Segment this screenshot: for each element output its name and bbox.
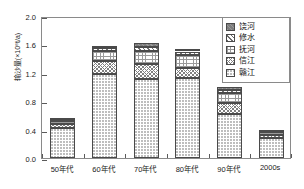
legend-label: 赣江	[239, 69, 255, 77]
bar-segment-信江[interactable]	[50, 124, 75, 128]
bar-segment-抚河[interactable]	[134, 51, 159, 64]
bar-segment-赣江[interactable]	[175, 78, 200, 158]
bar-segment-信江[interactable]	[259, 135, 284, 139]
x-tick-label: 90年代	[217, 163, 239, 174]
y-tick-label: 0.4	[6, 126, 36, 135]
legend-item[interactable]: 赣江	[226, 67, 287, 79]
bar-segment-抚河[interactable]	[217, 93, 242, 103]
bar-segment-信江[interactable]	[175, 68, 200, 78]
x-tick-label: 80年代	[176, 163, 198, 174]
x-tick-mark	[291, 154, 292, 158]
bar-segment-赣江[interactable]	[217, 114, 242, 158]
legend-label: 饶河	[239, 23, 255, 31]
bar-segment-饶河[interactable]	[92, 46, 117, 48]
x-tick-label: 70年代	[134, 163, 156, 174]
bar-segment-信江[interactable]	[92, 61, 117, 73]
legend-swatch-抚河	[226, 46, 235, 54]
bar-segment-赣江[interactable]	[92, 74, 117, 158]
bar-segment-饶河[interactable]	[175, 49, 200, 51]
legend-label: 抚河	[239, 46, 255, 54]
y-tick-label: 0.0	[6, 155, 36, 164]
legend-swatch-信江	[226, 57, 235, 65]
y-tick-label: 1.2	[6, 69, 36, 78]
legend-swatch-赣江	[226, 69, 235, 77]
legend-item[interactable]: 信江	[226, 56, 287, 68]
bar-segment-赣江[interactable]	[134, 79, 159, 158]
bar-segment-修水[interactable]	[134, 47, 159, 51]
bar-segment-饶河[interactable]	[134, 43, 159, 47]
x-tick-label: 2000s	[260, 163, 280, 172]
bar-segment-饶河[interactable]	[50, 118, 75, 120]
bar-stack[interactable]	[92, 16, 117, 158]
legend-label: 信江	[239, 57, 255, 65]
y-tick-label: 0.8	[6, 98, 36, 107]
bar-segment-信江[interactable]	[217, 103, 242, 114]
bar-segment-信江[interactable]	[134, 64, 159, 79]
legend-swatch-饶河	[226, 23, 235, 31]
bar-segment-修水[interactable]	[175, 52, 200, 56]
bar-segment-抚河[interactable]	[50, 121, 75, 124]
bar-segment-赣江[interactable]	[50, 128, 75, 158]
bar-segment-饶河[interactable]	[259, 130, 284, 132]
bar-stack[interactable]	[50, 16, 75, 158]
bar-segment-修水[interactable]	[92, 48, 117, 51]
y-tick-label: 2.0	[6, 13, 36, 22]
legend-item[interactable]: 抚河	[226, 44, 287, 56]
bar-segment-抚河[interactable]	[92, 51, 117, 62]
legend-swatch-修水	[226, 34, 235, 42]
bar-segment-赣江[interactable]	[259, 138, 284, 158]
y-tick-label: 1.6	[6, 41, 36, 50]
bar-segment-修水[interactable]	[217, 90, 242, 94]
bar-segment-抚河[interactable]	[175, 55, 200, 68]
stacked-bar-chart: 输沙量(×10⁸t/a) 0.00.40.81.21.62.0 50年代60年代…	[0, 0, 304, 189]
legend-item[interactable]: 饶河	[226, 21, 287, 33]
chart-legend: 饶河修水抚河信江赣江	[222, 17, 290, 83]
legend-label: 修水	[239, 34, 255, 42]
x-tick-label: 60年代	[92, 163, 114, 174]
legend-item[interactable]: 修水	[226, 33, 287, 45]
bar-stack[interactable]	[134, 16, 159, 158]
bar-stack[interactable]	[175, 16, 200, 158]
y-tick-mark	[42, 160, 47, 161]
bar-segment-饶河[interactable]	[217, 87, 242, 90]
x-tick-label: 50年代	[51, 163, 73, 174]
